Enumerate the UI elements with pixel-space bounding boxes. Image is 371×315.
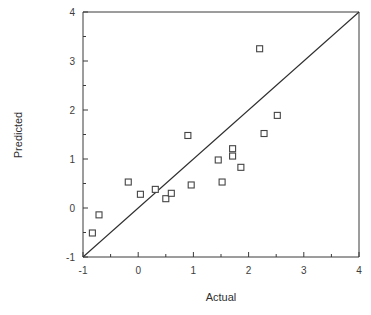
data-point [274,112,280,118]
data-point [230,153,236,159]
y-axis-title: Predicted [12,112,24,158]
data-point [219,179,225,185]
y-axis-ticks [83,12,88,257]
data-point [168,190,174,196]
y-tick-label: -1 [66,252,75,263]
x-axis-ticks [83,252,359,257]
data-point [188,182,194,188]
x-tick-label: -1 [79,265,88,276]
x-tick-label: 4 [356,265,362,276]
x-tick-label: 3 [301,265,307,276]
y-tick-label: 1 [69,154,75,165]
identity-reference-line [83,12,359,257]
data-point [257,46,263,52]
x-axis-tick-labels: -101234 [79,265,363,276]
data-point [261,131,267,137]
plot-canvas: -101234 -101234 Actual Predicted [0,0,371,315]
y-tick-label: 0 [69,203,75,214]
y-tick-label: 3 [69,56,75,67]
data-point [185,132,191,138]
y-tick-label: 4 [69,7,75,18]
data-point [89,230,95,236]
data-point [152,186,158,192]
data-point [230,146,236,152]
x-tick-label: 0 [135,265,141,276]
data-point [238,164,244,170]
y-axis-tick-labels: -101234 [66,7,75,263]
data-point [215,157,221,163]
data-point [125,179,131,185]
data-point [96,212,102,218]
x-tick-label: 1 [191,265,197,276]
y-tick-label: 2 [69,105,75,116]
data-point [137,191,143,197]
x-axis-title: Actual [206,291,237,303]
x-tick-label: 2 [246,265,252,276]
scatter-plot-figure: -101234 -101234 Actual Predicted [0,0,371,315]
data-point-layer [89,46,280,236]
